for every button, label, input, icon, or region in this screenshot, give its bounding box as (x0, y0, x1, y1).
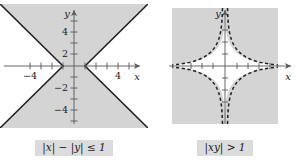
caption-right-wrap: |xy| > 1 (151, 136, 299, 156)
panel-right: x y |xy| > 1 (151, 0, 299, 162)
figure-two-inequality-graphs: −4 4 4 2 −2 −4 x y |x| − |y| ≤ 1 (0, 0, 299, 162)
caption-left: |x| − |y| ≤ 1 (35, 140, 113, 156)
caption-left-wrap: |x| − |y| ≤ 1 (0, 136, 148, 156)
plot-abs-x-minus-abs-y: −4 4 4 2 −2 −4 x y (0, 4, 148, 128)
axis-label-y-right: y (214, 8, 221, 19)
x-tick-label-neg4: −4 (23, 70, 37, 81)
plot-abs-xy-greater-1: x y (151, 4, 299, 128)
y-tick-label-4: 4 (62, 26, 68, 37)
y-tick-label-2: 2 (62, 48, 68, 59)
axis-label-y-left: y (63, 8, 70, 19)
y-tick-label-neg4: −4 (54, 104, 68, 115)
caption-right: |xy| > 1 (197, 140, 252, 156)
chart-svg-right: x y (151, 4, 299, 128)
y-tick-label-neg2: −2 (54, 82, 68, 93)
axis-label-x-left: x (134, 71, 140, 82)
x-tick-label-4: 4 (115, 70, 121, 81)
panel-left: −4 4 4 2 −2 −4 x y |x| − |y| ≤ 1 (0, 0, 148, 162)
chart-svg-left: −4 4 4 2 −2 −4 x y (0, 4, 148, 128)
axis-label-x-right: x (285, 71, 291, 82)
